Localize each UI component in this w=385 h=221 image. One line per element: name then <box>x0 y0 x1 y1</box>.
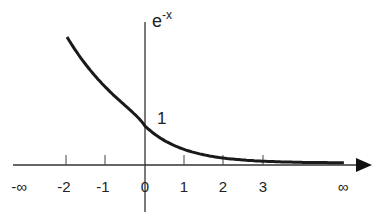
svg-text:1: 1 <box>180 178 188 195</box>
svg-text:0: 0 <box>141 178 149 195</box>
x-tick-labels: -∞ -2 -1 0 1 2 3 ∞ <box>11 178 349 195</box>
function-label: e-x <box>152 8 172 31</box>
svg-text:-2: -2 <box>57 178 70 195</box>
svg-text:3: 3 <box>259 178 267 195</box>
exp-decay-curve <box>67 37 344 163</box>
svg-text:2: 2 <box>219 178 227 195</box>
svg-text:-∞: -∞ <box>11 178 27 195</box>
svg-text:∞: ∞ <box>338 178 349 195</box>
intercept-label: 1 <box>157 109 166 128</box>
svg-text:-1: -1 <box>96 178 109 195</box>
x-axis-arrow-icon <box>356 158 372 172</box>
exponential-decay-diagram: e-x 1 -∞ -2 -1 0 1 2 3 ∞ <box>0 0 385 221</box>
